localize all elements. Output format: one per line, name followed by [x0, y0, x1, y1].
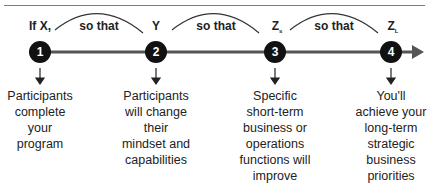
node-4-description: You'll achieve your long-term strategic …: [346, 88, 429, 184]
desc-line: functions will: [230, 152, 320, 168]
desc-line: Participants: [111, 88, 201, 104]
desc-line: business or: [230, 120, 320, 136]
node-1-description: Participants complete your program: [0, 88, 85, 152]
node-2: 2: [145, 41, 167, 63]
desc-line: mindset and: [111, 136, 201, 152]
desc-line: complete: [0, 104, 85, 120]
desc-line: business: [346, 152, 429, 168]
desc-line: short-term: [230, 104, 320, 120]
node-3-description: Specific short-term business or operatio…: [230, 88, 320, 184]
node-1-label: If X,: [29, 19, 51, 33]
node-1: 1: [29, 41, 51, 63]
connector-label-3: so that: [314, 19, 353, 33]
desc-line: Specific: [230, 88, 320, 104]
connector-label-1: so that: [79, 19, 118, 33]
timeline-arrowhead-icon: [412, 45, 424, 59]
down-arrowhead-2-icon: [152, 78, 160, 84]
desc-line: strategic: [346, 136, 429, 152]
desc-line: program: [0, 136, 85, 152]
desc-line: will change: [111, 104, 201, 120]
desc-line: Participants: [0, 88, 85, 104]
desc-line: You'll: [346, 88, 429, 104]
node-2-description: Participants will change their mindset a…: [111, 88, 201, 168]
desc-line: capabilities: [111, 152, 201, 168]
node-3-label: Zs: [272, 19, 283, 34]
node-4-label: ZL: [387, 19, 398, 34]
desc-line: your: [0, 120, 85, 136]
node-3: 3: [264, 41, 286, 63]
desc-line: their: [111, 120, 201, 136]
node-2-label: Y: [152, 19, 160, 33]
desc-line: improve: [230, 168, 320, 184]
desc-line: operations: [230, 136, 320, 152]
desc-line: long-term: [346, 120, 429, 136]
down-arrowhead-3-icon: [271, 78, 279, 84]
down-arrowhead-4-icon: [387, 78, 395, 84]
down-arrowhead-1-icon: [36, 78, 44, 84]
desc-line: achieve your: [346, 104, 429, 120]
connector-label-2: so that: [196, 19, 235, 33]
node-4: 4: [380, 41, 402, 63]
desc-line: priorities: [346, 168, 429, 184]
